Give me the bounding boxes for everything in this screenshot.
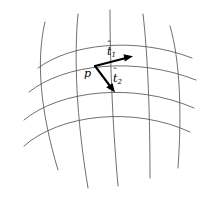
v-curve-2 [76,14,88,188]
u-curve-4 [24,116,190,146]
figure-canvas [0,0,207,197]
v-curve-1 [40,22,58,170]
grid-curves-horizontal [24,45,196,146]
tangent-vector-t2-shaft [95,66,110,86]
grid-curves-vertical [40,10,180,188]
v-curve-4 [143,14,150,178]
u-curve-3 [24,92,194,120]
v-curve-3 [110,10,118,186]
t2-hat-group: ˆ t [113,73,117,84]
t1-hat-accent: ˆ [106,40,111,50]
t2-subscript: 2 [117,78,121,86]
t2-hat-accent: ˆ [112,67,117,77]
tangent-vector-t1-label: ˆ t 1 [107,46,116,59]
t1-subscript: 1 [111,51,115,59]
v-curve-5 [170,26,180,168]
coordinate-patch-figure: ˆ t 1 ˆ t 2 p [0,0,207,197]
point-p-label: p [84,68,91,79]
t1-hat-group: ˆ t [107,46,111,57]
tangent-vector-t1-arrowhead [124,54,134,61]
tangent-vector-t2-label: ˆ t 2 [113,73,122,86]
